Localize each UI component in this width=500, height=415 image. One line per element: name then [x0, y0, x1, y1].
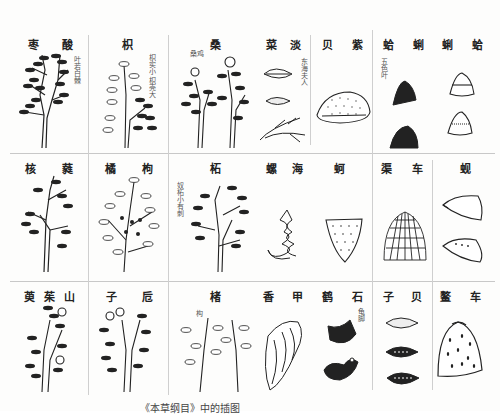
shell-danlai-illustration [260, 69, 305, 142]
plant-zhi-illustration [103, 62, 157, 148]
plant-gouju-illustration [99, 178, 159, 272]
shell-aoche-illustration [438, 322, 482, 376]
plant-zhizi-illustration [99, 308, 151, 392]
shell-jiaxiang-illustration [265, 321, 301, 390]
figure-caption: 《本草纲目》中的插图 [140, 400, 240, 415]
plant-chu-illustration [181, 318, 251, 392]
shell-ge-illustration [448, 73, 474, 135]
plant-zhe-illustration [191, 186, 249, 272]
shell-beizi-illustration [386, 318, 419, 384]
plant-sang-illustration [181, 57, 249, 148]
plant-heirui-illustration [21, 176, 73, 272]
shell-zibei-illustration [317, 92, 370, 123]
shell-chequ-illustration [384, 212, 426, 260]
plant-suanzao-illustration [19, 54, 69, 148]
shell-haiying-illustration [268, 210, 296, 259]
shell-geli-illustration [390, 81, 418, 148]
plant-shanzhuyu-illustration [25, 306, 67, 392]
shell-xian-illustration [443, 196, 482, 262]
shell-he-illustration [326, 219, 362, 262]
shell-shijie-illustration [324, 320, 358, 380]
